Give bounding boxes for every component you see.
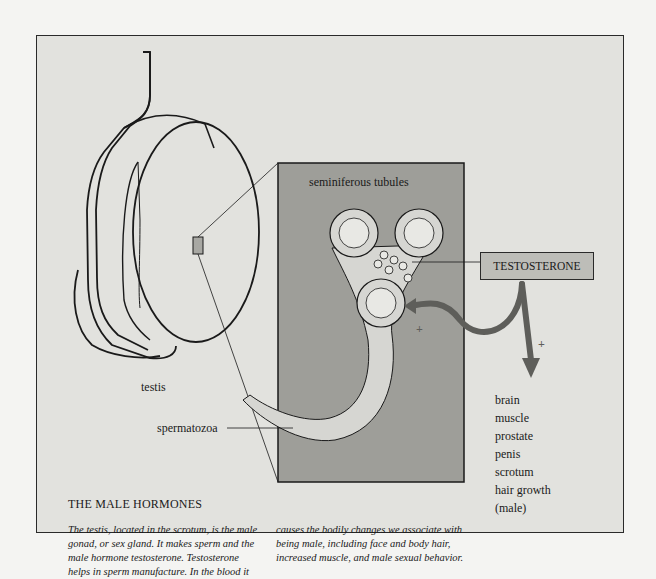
caption-right-column: causes the bodily changes we associate w… (276, 523, 466, 565)
testosterone-label: TESTOSTERONE (493, 260, 580, 272)
arrow-head-to-organs (522, 358, 540, 378)
label-testis: testis (141, 380, 166, 395)
testosterone-box: TESTOSTERONE (480, 252, 594, 280)
organ-item: scrotum (495, 463, 551, 481)
organ-item: muscle (495, 409, 551, 427)
testis-drawing (74, 52, 259, 358)
plus-sign-organs: + (538, 337, 545, 352)
plus-sign-tubule: + (416, 322, 423, 337)
organ-item: prostate (495, 427, 551, 445)
organ-item: (male) (495, 499, 551, 517)
organ-item: penis (495, 445, 551, 463)
label-seminiferous-tubules: seminiferous tubules (309, 175, 409, 190)
caption-title: THE MALE HORMONES (68, 497, 202, 512)
organ-item: hair growth (495, 481, 551, 499)
organ-item: brain (495, 391, 551, 409)
label-spermatozoa: spermatozoa (157, 421, 218, 436)
target-organ-list: brain muscle prostate penis scrotum hair… (495, 391, 551, 517)
sample-region-marker (193, 237, 203, 254)
caption-left-column: The testis, located in the scrotum, is t… (68, 523, 258, 579)
tubule-panel (227, 163, 495, 482)
